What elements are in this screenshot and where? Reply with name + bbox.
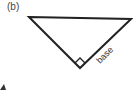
right-triangle xyxy=(29,17,131,68)
base-label: base xyxy=(94,45,115,66)
right-triangle-diagram: base xyxy=(0,0,133,95)
partial-shape-fragment xyxy=(0,84,6,90)
right-angle-marker xyxy=(75,58,85,63)
